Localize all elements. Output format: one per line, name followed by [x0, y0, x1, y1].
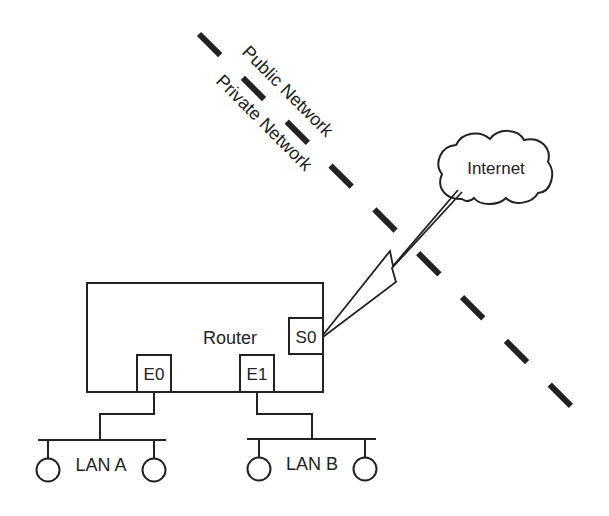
network-boundary-line [199, 34, 581, 416]
lan-b-label: LAN B [286, 454, 338, 474]
lan-b-connector-line [257, 392, 312, 439]
interface-s0-label: S0 [296, 328, 317, 347]
lan-a-host-1-icon [37, 459, 60, 482]
serial-link-line [323, 190, 462, 337]
internet-label: Internet [467, 159, 525, 178]
lan-a-connector-line [100, 392, 154, 440]
router-label: Router [203, 328, 257, 348]
lan-b-host-2-icon [354, 458, 377, 481]
network-diagram: Public Network Private Network Internet … [0, 0, 609, 516]
lan-a-label: LAN A [75, 455, 126, 475]
lan-a-host-2-icon [143, 459, 166, 482]
private-network-label: Private Network [212, 71, 317, 176]
interface-e1-label: E1 [247, 365, 268, 384]
lan-b-host-1-icon [248, 458, 271, 481]
interface-e0-label: E0 [144, 365, 165, 384]
